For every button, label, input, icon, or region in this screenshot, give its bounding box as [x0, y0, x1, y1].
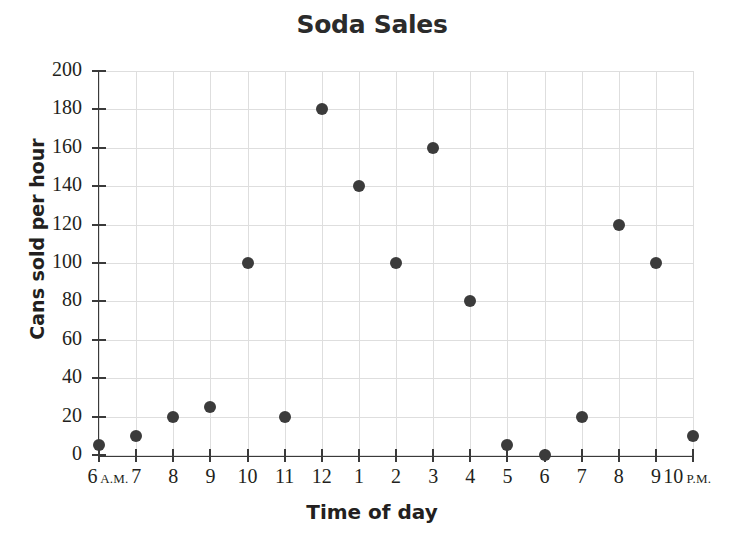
- y-axis-tick: [92, 377, 106, 379]
- x-axis-ampm-label: P.M.: [683, 471, 711, 486]
- gridline-vertical: [285, 71, 286, 455]
- gridline-vertical: [433, 71, 434, 455]
- y-axis-tick-label: 140: [24, 173, 82, 196]
- y-axis-tick: [92, 416, 106, 418]
- gridline-vertical: [545, 71, 546, 455]
- x-axis-tick: [395, 449, 397, 462]
- data-point: [167, 411, 179, 423]
- x-axis-tick: [432, 449, 434, 462]
- x-axis-tick-label: 4: [465, 465, 475, 488]
- y-axis-tick-label: 40: [24, 365, 82, 388]
- x-axis-tick-label: 9: [651, 465, 661, 488]
- data-point: [279, 411, 291, 423]
- gridline-vertical: [507, 71, 508, 455]
- x-axis-tick-label: 5: [502, 465, 512, 488]
- data-point: [130, 430, 142, 442]
- y-axis-tick-label: 100: [24, 250, 82, 273]
- data-point: [427, 142, 439, 154]
- x-axis-tick-label: 10: [238, 465, 258, 488]
- y-axis-tick: [92, 147, 106, 149]
- data-point: [539, 449, 551, 461]
- x-axis-tick: [618, 449, 620, 462]
- data-point: [650, 257, 662, 269]
- y-axis-tick: [92, 300, 106, 302]
- x-axis-tick: [172, 449, 174, 462]
- x-axis-tick-label: 2: [391, 465, 401, 488]
- gridline-vertical: [173, 71, 174, 455]
- x-axis-tick: [358, 449, 360, 462]
- y-axis-tick-label: 0: [24, 442, 82, 465]
- x-axis-ampm-label: A.M.: [98, 471, 129, 486]
- x-axis-tick: [692, 449, 694, 462]
- y-axis-tick: [92, 339, 106, 341]
- x-axis-tick-label: 1: [354, 465, 364, 488]
- x-axis-tick-label: 6 A.M.: [88, 465, 129, 488]
- x-axis-tick: [135, 449, 137, 462]
- x-axis-tick-label: 10 P.M.: [663, 465, 711, 488]
- y-axis-tick-label: 160: [24, 135, 82, 158]
- x-axis-title: Time of day: [0, 500, 744, 524]
- x-axis-tick: [284, 449, 286, 462]
- y-axis-tick: [92, 70, 106, 72]
- data-point: [576, 411, 588, 423]
- x-axis-tick-label: 12: [312, 465, 332, 488]
- y-axis-tick: [92, 108, 106, 110]
- y-axis-tick-label: 120: [24, 212, 82, 235]
- x-axis-tick: [209, 449, 211, 462]
- data-point: [353, 180, 365, 192]
- gridline-vertical: [359, 71, 360, 455]
- y-axis-tick-label: 200: [24, 58, 82, 81]
- y-axis-tick: [92, 224, 106, 226]
- chart-page: Soda Sales Cans sold per hour Time of da…: [0, 0, 744, 557]
- x-axis-tick: [581, 449, 583, 462]
- y-axis-tick: [92, 262, 106, 264]
- y-axis-tick-label: 20: [24, 404, 82, 427]
- y-axis-tick-label: 80: [24, 288, 82, 311]
- data-point: [390, 257, 402, 269]
- y-axis-tick: [92, 185, 106, 187]
- x-axis-tick-label: 8: [614, 465, 624, 488]
- gridline-vertical: [582, 71, 583, 455]
- x-axis-tick-label: 7: [131, 465, 141, 488]
- gridline-vertical: [210, 71, 211, 455]
- x-axis-tick: [655, 449, 657, 462]
- gridline-vertical: [693, 71, 694, 455]
- page-title: Soda Sales: [0, 10, 744, 39]
- x-axis-tick-label: 3: [428, 465, 438, 488]
- x-axis-tick: [247, 449, 249, 462]
- data-point: [613, 219, 625, 231]
- data-point: [687, 430, 699, 442]
- x-axis-tick-label: 8: [168, 465, 178, 488]
- gridline-vertical: [619, 71, 620, 455]
- x-axis-tick-label: 6: [540, 465, 550, 488]
- x-axis-tick-label: 11: [275, 465, 294, 488]
- gridline-vertical: [322, 71, 323, 455]
- y-axis-tick-label: 180: [24, 96, 82, 119]
- data-point: [242, 257, 254, 269]
- x-axis-tick: [321, 449, 323, 462]
- x-axis-tick: [469, 449, 471, 462]
- gridline-vertical: [470, 71, 471, 455]
- gridline-vertical: [136, 71, 137, 455]
- x-axis-tick-label: 7: [577, 465, 587, 488]
- y-axis-tick-label: 60: [24, 327, 82, 350]
- x-axis-tick-label: 9: [205, 465, 215, 488]
